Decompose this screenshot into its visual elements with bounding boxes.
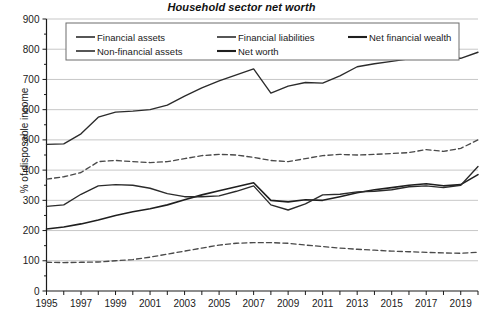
y-tick-label: 400 [23,165,40,176]
y-tick-label: 100 [23,255,40,266]
chart-container: Household sector net worth % of disposab… [0,0,483,312]
x-tick-label: 2007 [242,298,265,309]
legend-label: Non-financial assets [97,46,183,57]
y-tick-label: 600 [23,104,40,115]
data-series [47,52,479,262]
plot-area: 0100200300400500600700800900 19951997199… [0,0,483,312]
y-tick-label: 300 [23,195,40,206]
x-tick-label: 2017 [415,298,438,309]
x-tick-label: 1995 [35,298,58,309]
series-line [47,166,479,210]
legend-label: Financial liabilities [238,32,315,43]
x-tick-label: 2001 [139,298,162,309]
x-tick-label: 1999 [104,298,127,309]
y-tick-label: 0 [34,286,40,297]
x-tick-label: 2009 [277,298,300,309]
legend-label: Net financial wealth [369,32,451,43]
y-tick-label: 200 [23,225,40,236]
x-tick-label: 2011 [312,298,334,309]
y-tick-label: 700 [23,74,40,85]
x-axis-ticks: 1995199719992001200320052007200920112013… [35,291,478,309]
series-line [47,52,479,144]
x-tick-label: 1997 [70,298,93,309]
chart-legend: Financial assetsFinancial liabilitiesNet… [66,23,459,60]
x-tick-label: 2013 [346,298,369,309]
x-tick-label: 2003 [173,298,196,309]
x-tick-label: 2015 [381,298,404,309]
legend-label: Net worth [238,46,279,57]
y-axis-ticks: 0100200300400500600700800900 [23,14,47,297]
y-tick-label: 800 [23,44,40,55]
legend-label: Financial assets [97,32,165,43]
series-line [47,175,479,229]
x-tick-label: 2019 [450,298,473,309]
x-tick-label: 2005 [208,298,231,309]
y-tick-label: 900 [23,14,40,25]
y-tick-label: 500 [23,134,40,145]
series-line [47,140,479,179]
series-line [47,243,479,263]
